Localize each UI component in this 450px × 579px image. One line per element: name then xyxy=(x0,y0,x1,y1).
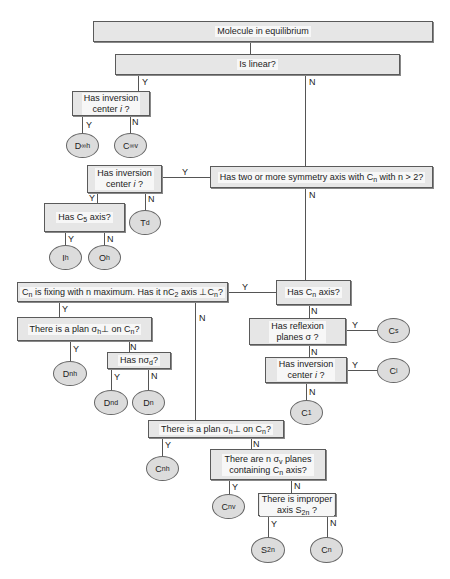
no-label: N xyxy=(294,481,301,491)
yes-label: Y xyxy=(271,519,277,529)
has-c5-box: Has C5 axis? xyxy=(44,203,125,232)
two-or-more-axes-box: Has two or more symmetry axis with Cn wi… xyxy=(210,166,433,188)
connector xyxy=(195,302,196,420)
connector xyxy=(145,193,146,211)
yes-label: Y xyxy=(142,77,148,87)
connector xyxy=(111,369,112,391)
cubic-inversion-text: Has inversioncenter i ? xyxy=(95,168,154,190)
group-oh: Oh xyxy=(88,245,121,270)
connector xyxy=(309,305,310,318)
group-td: Td xyxy=(129,210,161,235)
has-reflexion-box: Has reflexionplanes σ ? xyxy=(249,318,346,345)
linear-inversion-box: Has inversioncenter i ? xyxy=(72,91,150,116)
group-cn: Cn xyxy=(310,537,343,563)
group-ih: Ih xyxy=(49,245,82,270)
connector xyxy=(305,75,306,166)
connector xyxy=(104,232,105,246)
connector xyxy=(305,188,306,280)
no-label: N xyxy=(148,194,155,204)
yes-label: Y xyxy=(114,372,120,382)
group-dn: Dn xyxy=(132,390,165,415)
connector xyxy=(228,292,276,293)
improper-axis-text: There is improperaxis S2n ? xyxy=(260,494,335,516)
root-box: Molecule in equilibrium xyxy=(93,21,433,42)
no-label: N xyxy=(107,234,114,244)
plan-sigma-h-c-text: There is a plan σh⊥ on Cn? xyxy=(159,424,273,435)
connector xyxy=(70,341,71,362)
yes-label: Y xyxy=(242,282,248,292)
cn-fixing-text: Cn is fixing with n maximum. Has it nC2 … xyxy=(20,287,225,298)
n-sigma-v-box: There are n σv planescontaining Cn axis? xyxy=(210,449,326,480)
is-linear-box: Is linear? xyxy=(115,54,400,75)
group-c1: C1 xyxy=(290,400,323,425)
connector xyxy=(309,345,310,357)
has-cn-axis-text: Has Cn axis? xyxy=(285,287,341,298)
is-linear-text: Is linear? xyxy=(237,59,278,70)
yes-label: Y xyxy=(352,360,358,370)
plan-sigma-h-d-box: There is a plan σh⊥ on Cn? xyxy=(17,317,152,341)
group-cnh: Cnh xyxy=(146,456,179,481)
has-c5-text: Has C5 axis? xyxy=(56,212,112,223)
group-s2n: S2n xyxy=(251,537,285,563)
has-n-sigma-d-text: Has nσd? xyxy=(118,355,160,366)
connector xyxy=(162,438,163,457)
connector xyxy=(346,330,378,331)
plan-sigma-h-d-text: There is a plan σh⊥ on Cn? xyxy=(28,324,142,335)
yes-label: Y xyxy=(73,344,79,354)
connector xyxy=(250,42,251,54)
root-text: Molecule in equilibrium xyxy=(215,26,311,37)
connector xyxy=(59,302,60,317)
no-label: N xyxy=(309,190,316,200)
connector xyxy=(327,516,328,538)
group-cs: Cs xyxy=(377,318,410,343)
group-dnd: Dnd xyxy=(94,390,128,415)
has-n-sigma-d-box: Has nσd? xyxy=(107,352,171,369)
connector xyxy=(138,75,139,91)
connector xyxy=(65,232,66,246)
yes-label: Y xyxy=(86,120,92,130)
yes-label: Y xyxy=(165,440,171,450)
yes-label: Y xyxy=(68,234,74,244)
connector xyxy=(148,369,149,391)
group-dnh: Dnh xyxy=(53,361,87,386)
connector xyxy=(347,370,378,371)
plan-sigma-h-c-box: There is a plan σh⊥ on Cn? xyxy=(148,420,284,438)
connector xyxy=(229,480,230,495)
yes-label: Y xyxy=(232,482,238,492)
connector xyxy=(251,438,252,449)
n-sigma-v-text: There are n σv planescontaining Cn axis? xyxy=(222,454,313,476)
group-ci: Ci xyxy=(377,358,410,383)
no-label: N xyxy=(311,347,318,357)
no-label: N xyxy=(151,371,158,381)
connector xyxy=(82,116,83,134)
cn-fixing-box: Cn is fixing with n maximum. Has it nC2 … xyxy=(17,282,228,302)
no-label: N xyxy=(132,117,139,127)
no-label: N xyxy=(253,439,260,449)
no-label: N xyxy=(309,387,316,397)
yes-label: Y xyxy=(352,320,358,330)
low-inversion-box: Has inversioncenter i ? xyxy=(265,357,347,383)
has-reflexion-text: Has reflexionplanes σ ? xyxy=(269,321,326,343)
group-cnv: Cnv xyxy=(212,494,245,519)
group-c-inf-v: C∞v xyxy=(114,133,147,158)
connector xyxy=(97,193,98,203)
cubic-inversion-box: Has inversioncenter i ? xyxy=(87,165,162,193)
no-label: N xyxy=(311,306,318,316)
yes-label: Y xyxy=(89,193,95,203)
yes-label: Y xyxy=(62,304,68,314)
connector xyxy=(162,177,210,178)
yes-label: Y xyxy=(182,167,188,177)
connector xyxy=(268,516,269,538)
connector xyxy=(291,480,292,493)
no-label: N xyxy=(130,342,137,352)
low-inversion-text: Has inversioncenter i ? xyxy=(277,359,336,381)
no-label: N xyxy=(199,313,206,323)
has-cn-axis-box: Has Cn axis? xyxy=(276,280,351,305)
group-d-inf-h: D∞h xyxy=(66,133,99,158)
linear-inversion-text: Has inversioncenter i ? xyxy=(82,93,141,115)
no-label: N xyxy=(330,518,337,528)
connector xyxy=(130,116,131,134)
connector xyxy=(306,383,307,401)
no-label: N xyxy=(309,77,316,87)
two-or-more-axes-text: Has two or more symmetry axis with Cn wi… xyxy=(218,172,426,183)
